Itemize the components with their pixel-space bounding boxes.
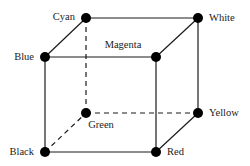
vertex-blue <box>40 52 50 62</box>
vertex-red <box>151 147 161 157</box>
vertex-labels: Cyan White Blue Magenta Green Yellow Bla… <box>10 11 240 157</box>
edge-black-green <box>45 113 86 152</box>
rgb-color-cube-diagram: Cyan White Blue Magenta Green Yellow Bla… <box>0 0 250 166</box>
label-blue: Blue <box>14 51 34 62</box>
label-red: Red <box>167 146 185 157</box>
label-yellow: Yellow <box>209 107 239 118</box>
vertex-yellow <box>193 108 203 118</box>
vertices <box>40 13 203 157</box>
vertex-magenta <box>151 52 161 62</box>
label-white: White <box>209 12 235 23</box>
vertex-white <box>193 13 203 23</box>
edge-magenta-white <box>156 18 198 57</box>
label-black: Black <box>10 146 35 157</box>
edge-blue-cyan <box>45 18 86 57</box>
vertex-black <box>40 147 50 157</box>
label-magenta: Magenta <box>105 39 142 50</box>
label-green: Green <box>88 119 114 130</box>
vertex-green <box>81 108 91 118</box>
label-cyan: Cyan <box>53 11 76 22</box>
vertex-cyan <box>81 13 91 23</box>
